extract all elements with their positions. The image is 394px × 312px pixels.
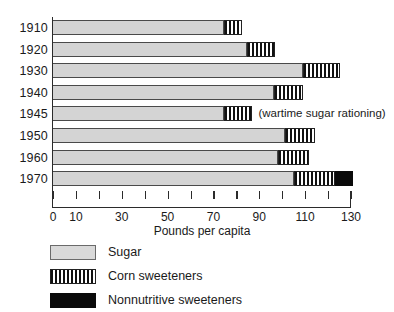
x-axis-tick (236, 191, 237, 199)
x-axis-tick (122, 191, 123, 199)
bar-segment-nonnutritive-sweeteners (335, 171, 353, 186)
bar-segment-sugar (53, 171, 294, 186)
bar-segment-corn-sweeteners (224, 106, 253, 121)
bar-segment-corn-sweeteners (294, 171, 335, 186)
sweetener-consumption-chart: 19101920193019401945195019601970 0103050… (0, 0, 394, 312)
x-axis-tick (145, 191, 146, 199)
bar-annotation: (wartime sugar rationing) (258, 107, 385, 119)
bar-segment-corn-sweeteners (285, 128, 316, 143)
x-axis-tick (213, 191, 214, 199)
x-axis-tick (99, 191, 100, 199)
y-axis-label-1930: 1930 (6, 64, 48, 78)
x-axis-tick (305, 191, 306, 199)
x-axis-tick-label-90: 90 (242, 210, 276, 224)
x-axis-tick-label-70: 70 (196, 210, 230, 224)
legend-label-sugar: Sugar (108, 245, 141, 260)
y-axis-label-1960: 1960 (6, 151, 48, 165)
x-axis-tick-label-110: 110 (288, 210, 322, 224)
bar-segment-sugar (53, 63, 303, 78)
bar-segment-sugar (53, 85, 274, 100)
legend-label-nonnutritive-sweeteners: Nonnutritive sweeteners (108, 293, 242, 308)
y-axis-label-1950: 1950 (6, 129, 48, 143)
legend-item-nonnutritive-sweeteners: Nonnutritive sweeteners (50, 291, 350, 312)
bar-segment-sugar (53, 20, 224, 35)
x-axis-tick (76, 191, 77, 199)
legend-item-corn-sweeteners: Corn sweeteners (50, 267, 350, 288)
bar-segment-sugar (53, 150, 278, 165)
bar-segment-corn-sweeteners (274, 85, 303, 100)
x-axis-tick (191, 191, 192, 199)
x-axis-tick (168, 191, 169, 199)
y-axis-label-1945: 1945 (6, 107, 48, 121)
x-axis-tick (328, 191, 329, 199)
x-axis-tick-label-10: 10 (59, 210, 93, 224)
bar-segment-corn-sweeteners (303, 63, 340, 78)
bar-segment-sugar (53, 106, 224, 121)
x-axis-tick (53, 191, 54, 199)
legend-item-sugar: Sugar (50, 243, 350, 264)
legend-swatch-corn-sweeteners-icon (50, 269, 96, 284)
x-axis-tick-label-50: 50 (151, 210, 185, 224)
legend-swatch-nonnutritive-sweeteners-icon (50, 293, 96, 308)
bar-segment-sugar (53, 42, 247, 57)
plot-area (53, 18, 351, 190)
x-axis-tick-label-130: 130 (334, 210, 368, 224)
chart-legend: Sugar Corn sweeteners Nonnutritive sweet… (50, 243, 350, 312)
y-axis-label-1940: 1940 (6, 86, 48, 100)
x-axis-tick (351, 191, 352, 199)
x-axis-band (52, 191, 351, 208)
legend-swatch-sugar-icon (50, 245, 96, 260)
y-axis-label-1970: 1970 (6, 172, 48, 186)
legend-label-corn-sweeteners: Corn sweeteners (108, 269, 203, 284)
bar-segment-corn-sweeteners (224, 20, 242, 35)
bar-segment-corn-sweeteners (247, 42, 276, 57)
x-axis-tick-label-30: 30 (105, 210, 139, 224)
bar-segment-sugar (53, 128, 285, 143)
bar-segment-corn-sweeteners (278, 150, 309, 165)
x-axis-tick (282, 191, 283, 199)
x-axis-tick (259, 191, 260, 199)
y-axis-label-1920: 1920 (6, 43, 48, 57)
y-axis-label-1910: 1910 (6, 21, 48, 35)
x-axis-title: Pounds per capita (53, 224, 351, 238)
